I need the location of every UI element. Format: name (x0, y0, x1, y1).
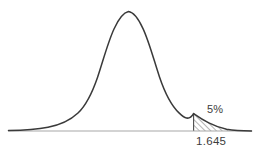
bell-curve (9, 12, 194, 131)
normal-distribution-figure: 5% 1.645 (0, 0, 261, 155)
tail-percent-label: 5% (207, 104, 223, 115)
critical-value-label: 1.645 (196, 136, 226, 148)
distribution-plot (0, 0, 261, 155)
